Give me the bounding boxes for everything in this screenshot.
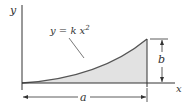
a-arrow-left-icon xyxy=(23,95,28,99)
shaded-area xyxy=(22,39,147,83)
y-axis-label: y xyxy=(9,4,17,17)
b-arrow-down-icon xyxy=(160,77,164,82)
a-arrow-right-icon xyxy=(141,95,146,99)
b-dimension-label: b xyxy=(158,53,165,66)
equation-label: y = k x2 xyxy=(49,24,90,36)
parabolic-area-diagram: y x y = k x2 b a xyxy=(0,0,189,107)
equation-exponent: 2 xyxy=(84,24,90,32)
x-axis-label: x xyxy=(176,83,182,94)
b-arrow-up-icon xyxy=(160,40,164,45)
a-dimension-label: a xyxy=(80,91,87,104)
equation-leader-line xyxy=(69,38,84,58)
equation-text: y = k x xyxy=(49,25,86,36)
